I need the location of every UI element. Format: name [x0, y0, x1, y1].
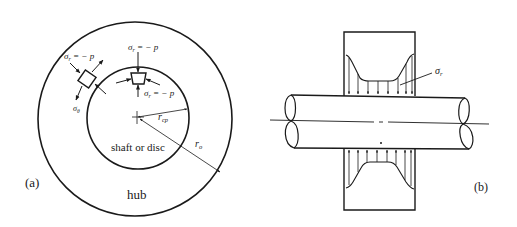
hub-top: [344, 32, 415, 96]
pressure-arrows-bottom: [349, 150, 411, 186]
label-stress-hoop: σθ: [73, 104, 80, 114]
panel-a-labels: σr = − p σr = − p σr = − p σθ rcp ro sha…: [25, 42, 203, 202]
pressure-profile-bottom: [346, 162, 414, 189]
pressure-profile-top: [346, 54, 414, 81]
arrow-hoop-top-right: [146, 79, 160, 85]
center-dot: [380, 142, 382, 144]
arrow-hoop-left-down: [76, 86, 82, 100]
panel-b-labels: σr (b): [435, 65, 488, 194]
label-hub: hub: [127, 187, 147, 202]
panel-b: [270, 32, 489, 210]
label-panel-b: (b): [474, 180, 488, 194]
arrow-hoop-left-up: [92, 60, 103, 72]
arrow-radial-left-in: [70, 63, 80, 73]
element-left: [78, 70, 96, 88]
label-stress-radial-b: σr: [435, 65, 443, 77]
label-stress-radial-top: σr = − p: [128, 42, 159, 53]
label-shaft: shaft or disc: [111, 141, 165, 153]
label-radius-outer: ro: [195, 138, 203, 150]
arrow-hoop-top-left: [116, 79, 131, 83]
label-panel-a: (a): [25, 175, 39, 190]
shaft-axis: [270, 120, 489, 124]
shaft-circle: [87, 67, 189, 169]
label-stress-radial-inner: σr = − p: [144, 88, 175, 99]
element-top: [131, 73, 146, 84]
label-stress-radial-left: σr = − p: [64, 51, 95, 62]
sigma-leader-line: [400, 73, 432, 85]
center-mark: [132, 111, 144, 124]
figure: σr = − p σr = − p σr = − p σθ rcp ro sha…: [0, 0, 517, 227]
shaft-left-end: [285, 95, 298, 148]
